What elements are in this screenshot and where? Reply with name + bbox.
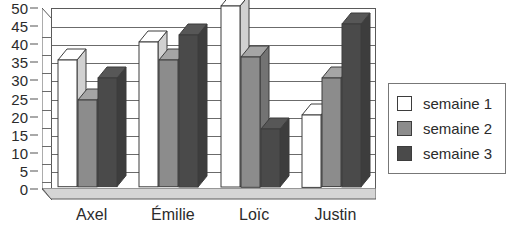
bar-3d	[342, 13, 372, 189]
y-tick-mark	[30, 62, 38, 63]
legend-item[interactable]: semaine 3	[397, 141, 497, 166]
y-tick-mark	[30, 44, 38, 45]
y-tick-label: 40	[11, 37, 28, 52]
bar	[322, 80, 341, 189]
y-tick-label: 30	[11, 73, 28, 88]
x-axis-label: Loïc	[239, 204, 269, 226]
bar-group	[51, 8, 376, 189]
y-tick-mark	[30, 8, 38, 9]
y-tick-mark	[30, 98, 38, 99]
y-tick-label: 35	[11, 55, 28, 70]
y-tick-label: 20	[11, 109, 28, 124]
y-axis: 05101520253035404550	[0, 0, 42, 200]
plot-area	[42, 8, 376, 200]
y-tick-label: 5	[20, 163, 28, 178]
legend-item[interactable]: semaine 1	[397, 91, 497, 116]
y-tick-mark	[30, 80, 38, 81]
chart-legend: semaine 1semaine 2semaine 3	[388, 83, 506, 174]
legend-swatch	[397, 96, 412, 111]
y-tick-label: 15	[11, 127, 28, 142]
bar-chart: 05101520253035404550 AxelÉmilieLoïcJusti…	[0, 0, 512, 234]
legend-label: semaine 1	[423, 96, 492, 111]
legend-label: semaine 2	[423, 121, 492, 136]
y-tick-mark	[30, 189, 38, 190]
y-tick-label: 25	[11, 91, 28, 106]
y-tick-mark	[30, 134, 38, 135]
y-tick-mark	[30, 26, 38, 27]
legend-swatch	[397, 121, 412, 136]
legend-swatch	[397, 146, 412, 161]
bar	[342, 26, 361, 189]
y-tick-label: 45	[11, 19, 28, 34]
y-tick-mark	[30, 116, 38, 117]
x-axis: AxelÉmilieLoïcJustin	[42, 204, 376, 230]
legend-label: semaine 3	[423, 146, 492, 161]
x-axis-label: Justin	[314, 204, 356, 226]
y-tick-label: 0	[20, 182, 28, 197]
floor	[42, 188, 376, 200]
legend-item[interactable]: semaine 2	[397, 116, 497, 141]
bar	[302, 117, 321, 189]
y-tick-mark	[30, 152, 38, 153]
bars-layer	[51, 8, 375, 189]
y-tick-label: 10	[11, 145, 28, 160]
x-axis-label: Axel	[76, 204, 107, 226]
y-tick-mark	[30, 170, 38, 171]
y-tick-label: 50	[11, 1, 28, 16]
x-axis-label: Émilie	[151, 204, 195, 226]
